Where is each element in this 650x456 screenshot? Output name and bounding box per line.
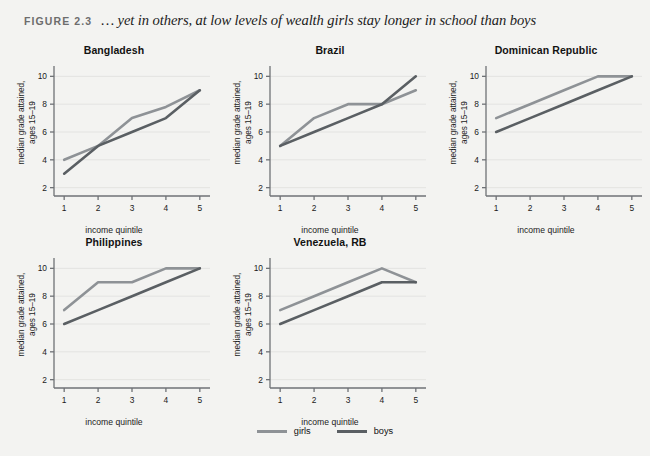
- svg-text:4: 4: [258, 347, 263, 357]
- chart-panel-bangladesh: Bangladesh 24681012345 median grade atta…: [8, 44, 220, 234]
- svg-text:6: 6: [258, 127, 263, 137]
- svg-text:10: 10: [254, 263, 264, 273]
- figure-title: … yet in others, at low levels of wealth…: [101, 12, 536, 29]
- svg-text:6: 6: [474, 127, 479, 137]
- svg-text:1: 1: [62, 203, 67, 213]
- svg-text:1: 1: [62, 395, 67, 405]
- svg-text:10: 10: [254, 71, 264, 81]
- svg-text:8: 8: [42, 99, 47, 109]
- figure-number: FIGURE 2.3: [24, 15, 92, 27]
- svg-text:2: 2: [258, 183, 263, 193]
- panel-row-2: Philippines 24681012345 median grade att…: [0, 236, 650, 428]
- plot-area: 24681012345 median grade attained, ages …: [8, 252, 220, 426]
- svg-text:2: 2: [42, 183, 47, 193]
- svg-text:2: 2: [528, 203, 533, 213]
- svg-text:2: 2: [96, 203, 101, 213]
- svg-text:2: 2: [312, 203, 317, 213]
- legend-label-girls: girls: [294, 426, 311, 436]
- y-axis-label-line1: median grade attained,: [233, 81, 242, 165]
- y-axis-label: median grade attained, ages 15–19: [17, 260, 38, 370]
- svg-text:1: 1: [278, 395, 283, 405]
- x-axis-label: income quintile: [224, 225, 436, 235]
- y-axis-label-line1: median grade attained,: [17, 81, 26, 165]
- svg-text:2: 2: [312, 395, 317, 405]
- svg-text:5: 5: [413, 395, 418, 405]
- svg-text:3: 3: [562, 203, 567, 213]
- svg-text:8: 8: [258, 291, 263, 301]
- svg-text:5: 5: [197, 395, 202, 405]
- svg-text:4: 4: [164, 395, 169, 405]
- y-axis-label-line2: ages 15–19: [243, 293, 252, 336]
- svg-text:5: 5: [197, 203, 202, 213]
- plot-area: 24681012345 median grade attained, ages …: [224, 60, 436, 234]
- svg-text:10: 10: [38, 71, 48, 81]
- svg-text:1: 1: [494, 203, 499, 213]
- panel-row-1: Bangladesh 24681012345 median grade atta…: [0, 44, 650, 236]
- panel-grid: Bangladesh 24681012345 median grade atta…: [0, 44, 650, 428]
- x-axis-label: income quintile: [8, 225, 220, 235]
- plot-area: 24681012345 median grade attained, ages …: [224, 252, 436, 426]
- svg-text:2: 2: [258, 375, 263, 385]
- svg-text:2: 2: [96, 395, 101, 405]
- y-axis-label-line1: median grade attained,: [233, 273, 242, 357]
- legend-swatch-boys: [337, 430, 367, 433]
- plot-area: 24681012345 median grade attained, ages …: [8, 60, 220, 234]
- legend-item-boys: boys: [337, 426, 393, 436]
- legend-label-boys: boys: [374, 426, 393, 436]
- chart-panel-brazil: Brazil 24681012345 median grade attained…: [224, 44, 436, 234]
- figure-container: FIGURE 2.3 … yet in others, at low level…: [0, 0, 650, 456]
- chart-legend: girls boys: [0, 426, 650, 436]
- plot-area: 24681012345 median grade attained, ages …: [440, 60, 650, 234]
- chart-panel-philippines: Philippines 24681012345 median grade att…: [8, 236, 220, 426]
- svg-text:6: 6: [42, 319, 47, 329]
- svg-text:8: 8: [258, 99, 263, 109]
- svg-text:3: 3: [346, 203, 351, 213]
- y-axis-label-line1: median grade attained,: [17, 273, 26, 357]
- legend-swatch-girls: [257, 430, 287, 433]
- svg-text:3: 3: [346, 395, 351, 405]
- legend-item-girls: girls: [257, 426, 311, 436]
- svg-text:4: 4: [380, 395, 385, 405]
- y-axis-label: median grade attained, ages 15–19: [233, 68, 254, 178]
- svg-text:4: 4: [42, 347, 47, 357]
- svg-text:10: 10: [470, 71, 480, 81]
- y-axis-label-line2: ages 15–19: [243, 101, 252, 144]
- y-axis-label-line2: ages 15–19: [27, 293, 36, 336]
- svg-text:4: 4: [380, 203, 385, 213]
- svg-text:8: 8: [42, 291, 47, 301]
- svg-text:8: 8: [474, 99, 479, 109]
- svg-text:4: 4: [258, 155, 263, 165]
- panel-title: Venezuela, RB: [224, 236, 436, 248]
- panel-title: Bangladesh: [8, 44, 220, 56]
- svg-text:4: 4: [474, 155, 479, 165]
- panel-title: Brazil: [224, 44, 436, 56]
- svg-text:4: 4: [42, 155, 47, 165]
- panel-title: Philippines: [8, 236, 220, 248]
- svg-text:6: 6: [42, 127, 47, 137]
- panel-title: Dominican Republic: [440, 44, 650, 56]
- svg-text:3: 3: [130, 395, 135, 405]
- y-axis-label: median grade attained, ages 15–19: [449, 68, 470, 178]
- y-axis-label-line2: ages 15–19: [27, 101, 36, 144]
- chart-panel-venezuela-rb: Venezuela, RB 24681012345 median grade a…: [224, 236, 436, 426]
- svg-text:6: 6: [258, 319, 263, 329]
- y-axis-label: median grade attained, ages 15–19: [17, 68, 38, 178]
- svg-text:5: 5: [413, 203, 418, 213]
- svg-text:3: 3: [130, 203, 135, 213]
- svg-text:2: 2: [42, 375, 47, 385]
- y-axis-label-line1: median grade attained,: [449, 81, 458, 165]
- svg-text:4: 4: [164, 203, 169, 213]
- figure-caption: FIGURE 2.3 … yet in others, at low level…: [24, 12, 536, 29]
- svg-text:1: 1: [278, 203, 283, 213]
- y-axis-label-line2: ages 15–19: [459, 101, 468, 144]
- svg-text:2: 2: [474, 183, 479, 193]
- svg-text:4: 4: [596, 203, 601, 213]
- x-axis-label: income quintile: [440, 225, 650, 235]
- svg-text:10: 10: [38, 263, 48, 273]
- svg-text:5: 5: [629, 203, 634, 213]
- chart-panel-dominican-republic: Dominican Republic 24681012345 median gr…: [440, 44, 650, 234]
- y-axis-label: median grade attained, ages 15–19: [233, 260, 254, 370]
